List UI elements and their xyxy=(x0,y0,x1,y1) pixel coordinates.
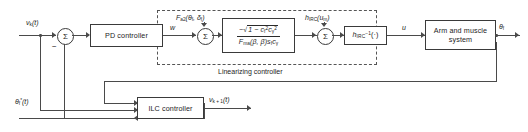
wire-theta-f-to-ilc-vertical xyxy=(104,81,105,103)
wire-sum1-branch-riser xyxy=(204,103,205,119)
wire-theta-f-feedback-vertical xyxy=(496,42,497,81)
block-arm-and-muscle-system-label: Arm and muscle system xyxy=(434,26,487,44)
wire-theta-f-to-sum1-vertical xyxy=(64,42,65,118)
wire-ilc-output xyxy=(204,108,251,109)
signal-label-fa2: Fa2(θf, δf) xyxy=(176,14,205,23)
wire-theta-f-to-ilc-horizontal xyxy=(104,103,137,104)
summing-junction-2: Σ xyxy=(197,28,214,45)
block-pd-controller-label: PD controller xyxy=(105,31,148,40)
block-irc-inverse-label: hIRC−1(·) xyxy=(352,30,378,40)
block-irc-inverse: hIRC−1(·) xyxy=(344,26,387,45)
wire-irc-inverse-to-arm xyxy=(387,35,425,36)
signal-label-w: w xyxy=(170,24,175,31)
wire-vk-to-sum1 xyxy=(19,35,56,36)
arrow-arm-output xyxy=(515,32,519,38)
wire-vk-branch-to-ilc xyxy=(40,110,137,111)
wire-vk-branch-down xyxy=(40,35,41,110)
linearizing-gain-numerator: −√1 − cf2cγ2 xyxy=(237,25,280,35)
block-linearizing-gain: −√1 − cf2cγ2 Fma(β, β̇)sfcγ xyxy=(222,18,295,53)
control-block-diagram: Linearizing controller vk(t) Σ − PD cont… xyxy=(0,0,528,132)
arrow-fa2-into-sum2 xyxy=(201,23,207,27)
arrow-into-sum3 xyxy=(312,32,316,38)
arrow-h-irc-into-sum3 xyxy=(321,23,327,27)
block-arm-and-muscle-system: Arm and muscle system xyxy=(425,20,496,50)
summing-junction-1: Σ xyxy=(57,28,74,45)
summing-junction-2-symbol: Σ xyxy=(203,32,208,41)
arrow-vk-into-sum1 xyxy=(52,32,56,38)
signal-label-theta-ref: θf*(t) xyxy=(15,98,29,107)
linearizing-gain-fraction: −√1 − cf2cγ2 Fma(β, β̇)sfcγ xyxy=(237,25,280,45)
signal-label-theta-f: θf xyxy=(499,23,504,32)
signal-label-vk: vk(t) xyxy=(26,19,38,28)
wire-theta-f-feedback-horizontal xyxy=(104,81,497,82)
block-ilc-controller-label: ILC controller xyxy=(148,104,192,113)
summing-junction-3-symbol: Σ xyxy=(323,32,328,41)
linearizing-gain-denominator: Fma(β, β̇)sfcγ xyxy=(237,37,280,46)
summing-junction-1-negative-sign: − xyxy=(52,43,57,51)
signal-label-u: u xyxy=(402,24,406,31)
block-pd-controller: PD controller xyxy=(90,24,163,47)
block-ilc-controller: ILC controller xyxy=(137,97,204,119)
junction-dot-theta-f xyxy=(495,34,498,37)
signal-label-h-irc-um: hIRC(um) xyxy=(305,14,330,23)
arrow-into-sum2 xyxy=(192,32,196,38)
linearizing-controller-group-label: Linearizing controller xyxy=(218,68,283,75)
signal-label-v-next: vk + 1(t) xyxy=(209,96,230,105)
summing-junction-3: Σ xyxy=(317,28,334,45)
arrow-ilc-output xyxy=(247,105,251,111)
summing-junction-1-symbol: Σ xyxy=(63,32,68,41)
